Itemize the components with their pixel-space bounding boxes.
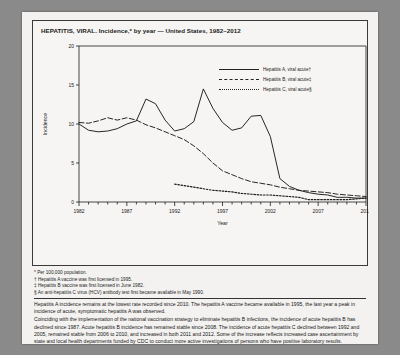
- y-tick-label: 5: [71, 160, 74, 166]
- series-group: [79, 89, 366, 200]
- x-tick-label: 2012: [360, 208, 369, 214]
- footnote-item: § An anti-hepatitis C virus (HCV) antibo…: [34, 290, 368, 297]
- y-tick-label: 0: [71, 199, 74, 205]
- x-axis-title: Year: [217, 220, 228, 226]
- footnote-item: * Per 100,000 population.: [34, 270, 368, 277]
- line-chart-svg: 051015201982198719921997200220072012Year…: [33, 21, 369, 267]
- legend-label-hepatitis-a: Hepatitis A, viral acute†: [259, 66, 311, 74]
- y-axis-title: Incidence: [42, 113, 48, 135]
- narrative-paragraph: Coinciding with the implementation of th…: [34, 316, 368, 345]
- x-tick-label: 1992: [169, 208, 180, 214]
- series-line-2: [79, 118, 366, 197]
- chart-legend: Hepatitis A, viral acute† Hepatitis B, v…: [219, 65, 359, 95]
- footnote-item: ‡ Hepatitis B vaccine was first licensed…: [34, 283, 368, 290]
- narrative-paragraph: Hepatitis A incidence remains at the low…: [34, 301, 368, 315]
- legend-label-hepatitis-b: Hepatitis B, viral acute‡: [259, 76, 311, 84]
- screenshot-page: HEPATITIS, VIRAL. Incidence,* by year — …: [0, 0, 400, 355]
- y-tick-label: 15: [68, 82, 74, 88]
- legend-item-hepatitis-a: Hepatitis A, viral acute†: [219, 65, 359, 74]
- x-tick-label: 2002: [265, 208, 276, 214]
- series-line-1: [79, 89, 366, 198]
- x-tick-label: 1997: [217, 208, 228, 214]
- plot-area: 051015201982198719921997200220072012Year…: [33, 21, 369, 267]
- legend-swatch-dashed-icon: [219, 76, 259, 84]
- y-tick-label: 10: [68, 121, 74, 127]
- x-tick-label: 1987: [121, 208, 132, 214]
- narrative-text: Hepatitis A incidence remains at the low…: [34, 301, 368, 346]
- legend-item-hepatitis-c: Hepatitis C, viral acute§: [219, 85, 359, 94]
- legend-swatch-dotted-icon: [219, 86, 259, 94]
- document-sheet: HEPATITIS, VIRAL. Incidence,* by year — …: [22, 12, 378, 344]
- x-tick-label: 1982: [73, 208, 84, 214]
- legend-swatch-solid-icon: [219, 66, 259, 74]
- y-tick-label: 20: [68, 43, 74, 49]
- footnote-list: * Per 100,000 population. † Hepatitis A …: [34, 270, 368, 296]
- footnote-item: † Hepatitis A vaccine was first licensed…: [34, 277, 368, 284]
- legend-item-hepatitis-b: Hepatitis B, viral acute‡: [219, 75, 359, 84]
- horizontal-divider: [34, 298, 366, 299]
- legend-label-hepatitis-c: Hepatitis C, viral acute§: [259, 86, 312, 94]
- figure-container: HEPATITIS, VIRAL. Incidence,* by year — …: [32, 20, 368, 266]
- x-tick-label: 2007: [313, 208, 324, 214]
